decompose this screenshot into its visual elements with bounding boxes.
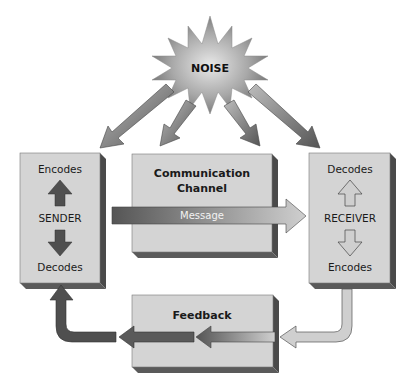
noise-label: NOISE xyxy=(191,62,229,75)
receiver-label: RECEIVER xyxy=(324,212,376,224)
noise-arrow-to-channel-right xyxy=(224,100,260,146)
sender-decodes-label: Decodes xyxy=(37,261,82,273)
feedback-label: Feedback xyxy=(173,309,233,322)
sender-encodes-label: Encodes xyxy=(38,163,82,175)
sender-box: Encodes SENDER Decodes xyxy=(20,153,106,289)
feedback-return-arrow-left xyxy=(50,285,116,342)
channel-box: Communication Channel xyxy=(132,154,278,258)
receiver-encodes-label: Encodes xyxy=(328,261,372,273)
receiver-decodes-label: Decodes xyxy=(327,163,372,175)
noise-starburst: NOISE xyxy=(152,16,268,114)
communication-diagram: NOISE Encodes SENDER Decodes Communicati… xyxy=(0,0,415,387)
receiver-box: Decodes RECEIVER Encodes xyxy=(309,153,396,289)
channel-title-line2: Channel xyxy=(177,182,227,195)
sender-label: SENDER xyxy=(38,212,81,224)
channel-title-line1: Communication xyxy=(154,167,250,180)
message-label: Message xyxy=(180,210,224,221)
feedback-return-arrow-right xyxy=(280,289,352,348)
noise-arrow-to-channel-left xyxy=(160,100,196,146)
